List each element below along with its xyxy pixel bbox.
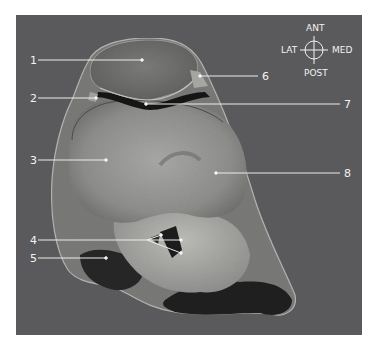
- compass-post-label: POST: [304, 69, 328, 78]
- label-8: 8: [344, 168, 351, 179]
- label-6: 6: [262, 71, 269, 82]
- label-1: 1: [30, 55, 37, 66]
- label-4: 4: [30, 235, 37, 246]
- compass-icon: [300, 36, 328, 64]
- compass-med-label: MED: [332, 46, 352, 55]
- label-5: 5: [30, 253, 37, 264]
- label-2: 2: [30, 93, 37, 104]
- compass-lat-label: LAT: [281, 46, 297, 55]
- compass-ant-label: ANT: [306, 24, 324, 33]
- label-7: 7: [344, 99, 351, 110]
- label-3: 3: [30, 155, 37, 166]
- specimen-illustration: [0, 0, 374, 345]
